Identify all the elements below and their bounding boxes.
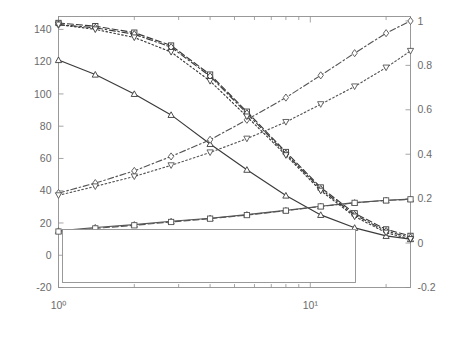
y-tick-label-right: 1 (418, 15, 424, 27)
y-tick-label-left: 0 (46, 249, 52, 261)
data-point-marker (352, 84, 358, 90)
data-point-marker (168, 163, 174, 169)
right-axis-ticks: -0.200.20.40.60.81 (406, 15, 436, 294)
series-line (59, 25, 411, 240)
y-tick-label-right: -0.2 (418, 281, 436, 293)
figure-root: -20020406080100120140 -0.200.20.40.60.81… (0, 0, 469, 341)
y-tick-label-right: 0 (418, 237, 424, 249)
y-tick-label-left: 120 (34, 55, 52, 67)
data-point-marker (244, 167, 250, 173)
data-point-marker (56, 229, 61, 234)
x-tick-label: 10⁰ (51, 299, 68, 311)
data-point-marker (383, 65, 389, 71)
y-tick-label-right: 0.6 (418, 103, 433, 115)
data-point-marker (131, 91, 137, 97)
data-point-marker (352, 50, 357, 57)
data-point-marker (318, 212, 324, 218)
data-point-marker (318, 102, 324, 108)
chart-legend (63, 230, 356, 283)
data-point-marker (283, 94, 288, 101)
data-point-marker (132, 223, 137, 228)
data-point-marker (383, 198, 388, 203)
y-tick-label-left: 100 (34, 88, 52, 100)
y-tick-label-left: 80 (40, 120, 52, 132)
series-line (59, 51, 411, 195)
data-point-marker (207, 150, 213, 156)
data-point-marker (168, 219, 173, 224)
chart-canvas: -20020406080100120140 -0.200.20.40.60.81… (0, 0, 469, 341)
data-point-marker (383, 30, 388, 37)
data-point-marker (318, 72, 323, 79)
series-0 (55, 57, 413, 242)
data-point-marker (132, 167, 137, 174)
data-point-marker (131, 35, 137, 41)
y-tick-label-right: 0.8 (418, 59, 433, 71)
data-point-marker (283, 192, 289, 198)
data-point-marker (168, 112, 174, 118)
data-point-marker (408, 197, 413, 202)
data-point-marker (352, 200, 357, 205)
left-axis-ticks: -20020406080100120140 (34, 23, 64, 293)
y-tick-label-left: 20 (40, 217, 52, 229)
data-point-marker (352, 214, 358, 220)
series-6 (55, 22, 413, 242)
data-point-marker (408, 17, 413, 24)
y-tick-label-right: 0.4 (418, 148, 433, 160)
data-point-marker (207, 216, 212, 221)
data-point-marker (55, 193, 61, 199)
y-tick-label-left: 40 (40, 184, 52, 196)
y-tick-label-left: 140 (34, 23, 52, 35)
y-tick-label-left: 60 (40, 152, 52, 164)
data-point-marker (168, 153, 173, 160)
data-point-marker (92, 27, 98, 33)
series-7 (55, 48, 413, 198)
y-tick-label-left: -20 (36, 281, 51, 293)
data-point-marker (407, 48, 413, 54)
data-point-marker (168, 49, 174, 55)
data-point-marker (283, 208, 288, 213)
data-point-marker (318, 204, 323, 209)
series-5 (56, 17, 413, 196)
series-layer (55, 17, 413, 242)
data-point-marker (55, 57, 61, 63)
x-tick-label: 10¹ (303, 299, 319, 311)
series-4 (56, 21, 413, 241)
y-tick-label-right: 0.2 (418, 192, 433, 204)
series-2 (56, 20, 413, 238)
series-line (59, 21, 411, 193)
data-point-marker (244, 212, 249, 217)
data-point-marker (283, 119, 289, 125)
data-point-marker (244, 136, 250, 142)
